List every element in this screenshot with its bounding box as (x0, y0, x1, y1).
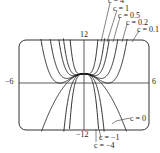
y-min-label: −12 (76, 131, 89, 139)
x-max-label: 6 (152, 78, 156, 86)
curve-label-cm4: c = −4 (94, 142, 115, 150)
y-max-label: 12 (80, 31, 88, 39)
curve-label-c0: c = 0 (130, 115, 146, 123)
x-min-label: −6 (5, 78, 14, 86)
curve-label-c01: c = 0.1 (137, 26, 159, 34)
